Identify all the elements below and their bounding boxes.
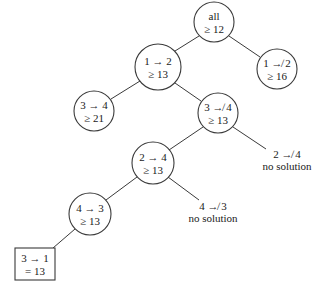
tree-node-n43: 4 → 3≥ 13	[69, 193, 111, 235]
node-label: all	[209, 10, 220, 22]
tree-node-n34: 3 → 4≥ 21	[74, 91, 114, 131]
leaf-n4not3: 4 ↛ 3no solution	[188, 200, 238, 224]
node-bound: ≥ 13	[148, 68, 168, 80]
edge-n3not4-to-n2not4	[233, 127, 266, 149]
node-bound: ≥ 13	[143, 164, 163, 176]
node-circle	[132, 142, 174, 184]
node-circle	[257, 49, 297, 89]
node-circle	[69, 193, 111, 235]
branch-and-bound-tree: all≥ 121 → 2≥ 131 ↛ 2≥ 163 → 4≥ 213 ↛ 4≥…	[0, 0, 315, 292]
node-circle	[194, 2, 234, 42]
node-bound: ≥ 12	[204, 23, 224, 35]
leaf-label: 2 ↛ 4	[273, 148, 301, 160]
leaf-n2not4: 2 ↛ 4no solution	[262, 148, 312, 172]
edge-n12-to-n34	[111, 81, 140, 99]
node-circle	[198, 93, 238, 133]
node-bound: = 13	[25, 265, 45, 277]
edge-n24-to-n43	[106, 177, 137, 200]
node-bound: ≥ 13	[208, 114, 228, 126]
leaf-label: 4 ↛ 3	[199, 200, 227, 212]
node-label: 1 → 2	[144, 55, 172, 67]
node-label: 1 ↛ 2	[263, 57, 291, 69]
leaf-status: no solution	[188, 212, 238, 224]
node-label: 4 → 3	[76, 202, 104, 214]
tree-diagram: all≥ 121 → 2≥ 131 ↛ 2≥ 163 → 4≥ 213 ↛ 4≥…	[0, 0, 315, 292]
tree-node-n24: 2 → 4≥ 13	[132, 142, 174, 184]
node-label: 3 ↛ 4	[204, 101, 232, 113]
node-bound: ≥ 16	[267, 70, 287, 82]
edge-n43-to-n31	[53, 229, 75, 248]
node-circle	[74, 91, 114, 131]
edge-n24-to-n4not3	[168, 177, 199, 200]
edge-all-to-n12	[175, 36, 199, 51]
node-circle	[135, 44, 181, 90]
node-label: 3 → 1	[21, 252, 49, 264]
node-label: 3 → 4	[80, 99, 108, 111]
tree-node-n31: 3 → 1= 13	[15, 248, 55, 280]
edge-n12-to-n3not4	[175, 83, 201, 101]
edge-n3not4-to-n24	[169, 127, 203, 150]
tree-node-n1not2: 1 ↛ 2≥ 16	[257, 49, 297, 89]
leaf-status: no solution	[262, 160, 312, 172]
edge-all-to-n1not2	[229, 36, 260, 57]
tree-node-all: all≥ 12	[194, 2, 234, 42]
tree-node-n3not4: 3 ↛ 4≥ 13	[198, 93, 238, 133]
node-bound: ≥ 13	[80, 215, 100, 227]
node-label: 2 → 4	[139, 151, 167, 163]
tree-node-n12: 1 → 2≥ 13	[135, 44, 181, 90]
node-bound: ≥ 21	[84, 112, 104, 124]
